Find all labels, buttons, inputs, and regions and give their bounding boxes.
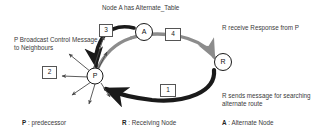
step-box-4: 4 bbox=[165, 28, 181, 41]
legend-item-a: A : Alternate Node bbox=[222, 119, 273, 126]
figure-title: Node A has Alternate_Table bbox=[102, 4, 179, 12]
step-box-1: 1 bbox=[160, 84, 176, 97]
node-r-label: R bbox=[216, 55, 230, 69]
caption-broadcast: P Broadcast Control Message to Neighbour… bbox=[14, 36, 98, 53]
step-box-2: 2 bbox=[42, 66, 57, 79]
legend-p-value: predecessor bbox=[31, 119, 66, 126]
step-box-3: 3 bbox=[99, 24, 113, 37]
node-p-label: P bbox=[88, 69, 102, 83]
caption-search-route: R sends message for searching alternate … bbox=[222, 92, 316, 109]
legend-item-p: P : predecessor bbox=[22, 119, 66, 126]
node-a-label: A bbox=[137, 25, 151, 39]
figure-canvas: A P R 1 2 3 4 Node A has Alternate_Table… bbox=[0, 0, 318, 135]
caption-receive-response: R receive Response from P bbox=[222, 24, 314, 32]
legend-a-value: Alternate Node bbox=[231, 119, 273, 126]
legend-r-value: Receiving Node bbox=[132, 119, 176, 126]
legend-item-r: R : Receiving Node bbox=[122, 119, 176, 126]
